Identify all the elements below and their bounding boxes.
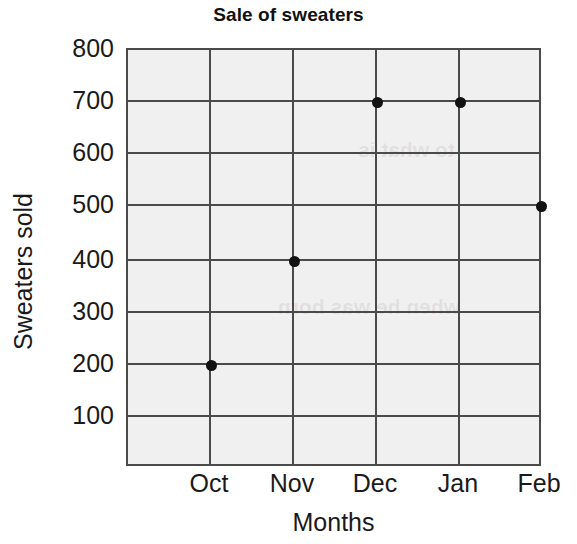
gridline-y-500	[128, 204, 539, 206]
x-tick-jan: Jan	[438, 471, 478, 496]
gridline-x-oct	[209, 50, 211, 464]
y-axis-title: Sweaters sold	[9, 157, 38, 387]
x-axis-title: Months	[126, 508, 541, 537]
gridline-y-300	[128, 311, 539, 313]
data-point-nov	[289, 256, 300, 267]
gridline-y-100	[128, 415, 539, 417]
data-point-feb	[536, 201, 547, 212]
gridline-y-200	[128, 363, 539, 365]
chart-container: Sale of sweaters 800 700 600 500 400 300…	[0, 0, 577, 544]
plot-area: to what is when he was born	[126, 48, 541, 466]
data-point-jan	[455, 97, 466, 108]
y-tick-800: 800	[4, 36, 114, 61]
gridline-x-dec	[375, 50, 377, 464]
gridline-x-jan	[458, 50, 460, 464]
x-tick-nov: Nov	[270, 471, 314, 496]
y-tick-100: 100	[4, 403, 114, 428]
gridline-y-600	[128, 152, 539, 154]
scan-bleed-artifact-bottom: when he was born	[278, 295, 460, 319]
gridline-y-700	[128, 100, 539, 102]
x-tick-dec: Dec	[353, 471, 397, 496]
data-point-dec	[372, 97, 383, 108]
x-tick-feb: Feb	[517, 471, 560, 496]
gridline-y-400	[128, 259, 539, 261]
scan-bleed-artifact-top: to what is	[358, 138, 455, 162]
x-tick-oct: Oct	[190, 471, 229, 496]
data-point-oct	[206, 360, 217, 371]
y-tick-700: 700	[4, 88, 114, 113]
